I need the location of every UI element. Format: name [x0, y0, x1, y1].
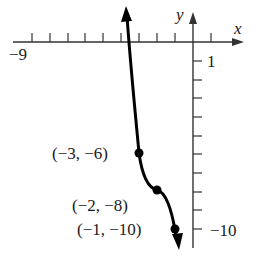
y-axis-label: y	[176, 6, 184, 23]
y-one-label: 1	[207, 53, 216, 70]
y-min-label: −10	[210, 222, 237, 239]
point-label-2: (−2, −8)	[72, 197, 128, 214]
y-axis-arrow-icon	[189, 12, 197, 24]
x-axis-ticks	[32, 33, 211, 42]
point-label-3: (−1, −10)	[77, 221, 142, 238]
point-neg3-neg6	[135, 149, 144, 158]
y-axis-ticks	[193, 61, 202, 229]
curve-line	[127, 16, 176, 236]
point-neg1-neg10	[171, 225, 180, 234]
curve-bottom-arrow-icon	[172, 233, 183, 250]
x-min-label: −9	[9, 46, 27, 63]
x-axis-arrow-icon	[232, 38, 244, 46]
curve-top-arrow-icon	[121, 6, 132, 22]
x-axis-label: x	[234, 20, 242, 37]
point-label-1: (−3, −6)	[52, 145, 108, 162]
point-neg2-neg8	[153, 186, 162, 195]
